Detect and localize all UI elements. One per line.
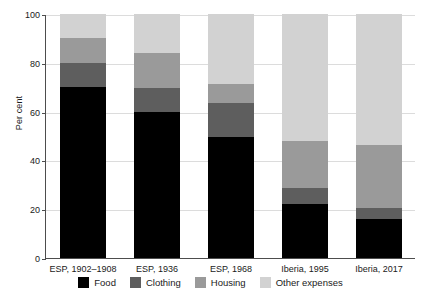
legend-label: Other expenses xyxy=(276,277,343,288)
y-tick-label: 100 xyxy=(25,10,40,20)
bar-segment-food[interactable] xyxy=(60,87,106,258)
bar-segment-housing[interactable] xyxy=(60,38,106,62)
y-tick-mark xyxy=(42,210,46,211)
legend-item-housing[interactable]: Housing xyxy=(195,277,246,288)
legend-item-other-expenses[interactable]: Other expenses xyxy=(260,277,343,288)
y-tick-mark xyxy=(42,113,46,114)
x-tick-label: ESP, 1968 xyxy=(210,264,252,274)
bar-segment-housing[interactable] xyxy=(356,145,402,208)
x-tick-label: ESP, 1902–1908 xyxy=(50,264,117,274)
y-tick-mark xyxy=(42,15,46,16)
bar-segment-other-expenses[interactable] xyxy=(134,14,180,53)
legend-swatch-icon xyxy=(260,277,271,288)
plot-area: 020406080100ESP, 1902–1908ESP, 1936ESP, … xyxy=(45,15,415,259)
legend-item-food[interactable]: Food xyxy=(78,277,116,288)
y-axis-title: Per cent xyxy=(14,78,24,148)
chart-legend: FoodClothingHousingOther expenses xyxy=(0,277,421,288)
bar-segment-housing[interactable] xyxy=(134,53,180,88)
bar-segment-clothing[interactable] xyxy=(356,208,402,219)
bar-group: Iberia, 1995 xyxy=(282,14,328,258)
bar-segment-food[interactable] xyxy=(208,137,254,258)
legend-swatch-icon xyxy=(130,277,141,288)
legend-swatch-icon xyxy=(195,277,206,288)
bar-segment-clothing[interactable] xyxy=(282,188,328,204)
bar-stack xyxy=(134,14,180,258)
y-tick-mark xyxy=(42,64,46,65)
x-tick-label: ESP, 1936 xyxy=(136,264,178,274)
bar-stack xyxy=(208,14,254,258)
legend-label: Food xyxy=(94,277,116,288)
bar-group: Iberia, 2017 xyxy=(356,14,402,258)
y-tick-mark xyxy=(42,161,46,162)
y-tick-label: 80 xyxy=(30,59,40,69)
bar-stack xyxy=(60,14,106,258)
legend-label: Housing xyxy=(211,277,246,288)
bar-segment-food[interactable] xyxy=(134,112,180,258)
bar-segment-housing[interactable] xyxy=(282,141,328,189)
legend-item-clothing[interactable]: Clothing xyxy=(130,277,181,288)
bar-segment-clothing[interactable] xyxy=(208,103,254,137)
bar-stack xyxy=(356,14,402,258)
bar-segment-other-expenses[interactable] xyxy=(356,14,402,145)
y-tick-label: 0 xyxy=(35,254,40,264)
bar-segment-other-expenses[interactable] xyxy=(282,14,328,141)
bar-segment-food[interactable] xyxy=(356,219,402,258)
bar-group: ESP, 1968 xyxy=(208,14,254,258)
bar-stack xyxy=(282,14,328,258)
bar-segment-other-expenses[interactable] xyxy=(208,14,254,84)
bar-segment-housing[interactable] xyxy=(208,84,254,104)
bar-segment-other-expenses[interactable] xyxy=(60,14,106,38)
y-tick-label: 20 xyxy=(30,205,40,215)
legend-swatch-icon xyxy=(78,277,89,288)
y-tick-label: 40 xyxy=(30,156,40,166)
bar-group: ESP, 1936 xyxy=(134,14,180,258)
x-tick-label: Iberia, 1995 xyxy=(281,264,329,274)
legend-label: Clothing xyxy=(146,277,181,288)
y-tick-mark xyxy=(42,259,46,260)
bar-group: ESP, 1902–1908 xyxy=(60,14,106,258)
bar-segment-clothing[interactable] xyxy=(134,88,180,111)
bar-segment-clothing[interactable] xyxy=(60,63,106,87)
y-tick-label: 60 xyxy=(30,108,40,118)
bar-segment-food[interactable] xyxy=(282,204,328,258)
x-tick-label: Iberia, 2017 xyxy=(355,264,403,274)
stacked-bar-chart: Per cent 020406080100ESP, 1902–1908ESP, … xyxy=(0,0,421,298)
